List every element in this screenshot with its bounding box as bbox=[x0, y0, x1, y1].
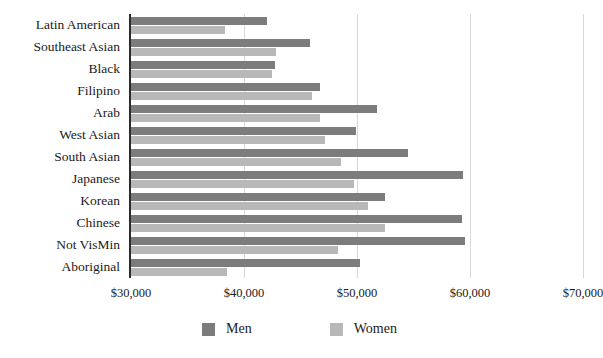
x-axis-tick-label: $50,000 bbox=[337, 286, 378, 301]
bar-men bbox=[131, 105, 377, 113]
legend-swatch-icon bbox=[202, 323, 215, 336]
y-axis-label: Aboriginal bbox=[0, 256, 126, 278]
bar-row bbox=[131, 80, 583, 102]
legend-swatch-icon bbox=[330, 323, 343, 336]
bar-men bbox=[131, 149, 408, 157]
y-axis-label: Korean bbox=[0, 190, 126, 212]
bar-women bbox=[131, 70, 272, 78]
bar-row bbox=[131, 102, 583, 124]
bar-row bbox=[131, 14, 583, 36]
chart-legend: MenWomen bbox=[0, 322, 599, 336]
bar-men bbox=[131, 237, 465, 245]
y-axis-label: Arab bbox=[0, 102, 126, 124]
legend-label: Men bbox=[226, 322, 252, 336]
bar-row bbox=[131, 36, 583, 58]
bar-women bbox=[131, 92, 312, 100]
bar-women bbox=[131, 136, 325, 144]
legend-item: Men bbox=[202, 322, 252, 336]
y-axis-label: Japanese bbox=[0, 168, 126, 190]
y-axis-label: South Asian bbox=[0, 146, 126, 168]
bar-men bbox=[131, 83, 320, 91]
x-axis-tick-labels: $30,000$40,000$50,000$60,000$70,000 bbox=[131, 286, 583, 304]
y-axis-category-labels: Latin AmericanSoutheast AsianBlackFilipi… bbox=[0, 14, 126, 278]
y-axis-label: Not VisMin bbox=[0, 234, 126, 256]
bar-men bbox=[131, 61, 275, 69]
bar-men bbox=[131, 215, 462, 223]
bar-women bbox=[131, 48, 276, 56]
x-axis-tick-label: $60,000 bbox=[450, 286, 491, 301]
y-axis-label: Southeast Asian bbox=[0, 36, 126, 58]
y-axis-label: Filipino bbox=[0, 80, 126, 102]
bar-women bbox=[131, 246, 338, 254]
bar-row bbox=[131, 190, 583, 212]
bar-rows bbox=[131, 14, 583, 278]
bar-row bbox=[131, 234, 583, 256]
gridline bbox=[583, 14, 584, 278]
bar-row bbox=[131, 168, 583, 190]
x-axis-tick-label: $30,000 bbox=[111, 286, 152, 301]
y-axis-label: Chinese bbox=[0, 212, 126, 234]
legend-item: Women bbox=[330, 322, 397, 336]
bar-men bbox=[131, 171, 463, 179]
x-axis-tick-label: $40,000 bbox=[224, 286, 265, 301]
bar-men bbox=[131, 127, 356, 135]
bar-men bbox=[131, 39, 310, 47]
bar-men bbox=[131, 259, 360, 267]
bar-women bbox=[131, 158, 341, 166]
bar-women bbox=[131, 26, 225, 34]
bar-women bbox=[131, 224, 385, 232]
x-axis-tick-label: $70,000 bbox=[563, 286, 603, 301]
bar-women bbox=[131, 268, 227, 276]
legend-label: Women bbox=[354, 322, 397, 336]
bar-row bbox=[131, 256, 583, 278]
bar-women bbox=[131, 202, 368, 210]
plot-area bbox=[131, 14, 583, 278]
y-axis-label: West Asian bbox=[0, 124, 126, 146]
bar-row bbox=[131, 124, 583, 146]
bar-row bbox=[131, 58, 583, 80]
y-axis-label: Black bbox=[0, 58, 126, 80]
bar-women bbox=[131, 180, 354, 188]
bar-women bbox=[131, 114, 320, 122]
bar-men bbox=[131, 17, 267, 25]
bar-men bbox=[131, 193, 385, 201]
y-axis-label: Latin American bbox=[0, 14, 126, 36]
bar-row bbox=[131, 146, 583, 168]
bar-row bbox=[131, 212, 583, 234]
